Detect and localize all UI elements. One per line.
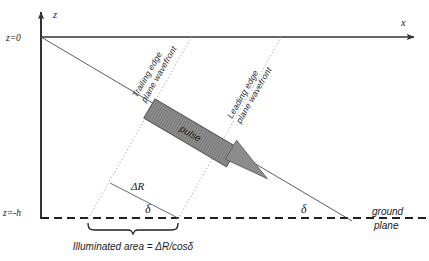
depression-angle-right-label: δ xyxy=(301,202,307,216)
ground-plane-label-line1: ground xyxy=(372,206,404,217)
z-height-label: z=-h xyxy=(2,208,21,218)
illuminated-area-caption: Illuminated area = ΔR/cosδ xyxy=(73,241,194,252)
z-axis-label: z xyxy=(52,9,57,20)
z-origin-label: z=0 xyxy=(5,33,21,43)
ground-plane-label-line2: plane xyxy=(373,220,399,231)
figure-background xyxy=(0,0,429,261)
delta-range-label: ΔR xyxy=(130,180,144,192)
figure-root: pulse z x z=0 z=-h Trailing edge plane w… xyxy=(0,0,429,261)
x-axis-label: x xyxy=(400,17,406,28)
radar-pulse-geometry-diagram: pulse z x z=0 z=-h Trailing edge plane w… xyxy=(0,0,429,261)
depression-angle-left-label: δ xyxy=(145,202,151,216)
